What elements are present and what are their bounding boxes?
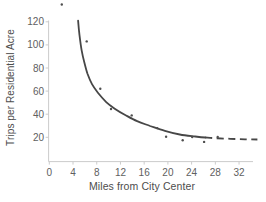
chart-canvas: 04812162024283220406080100120 [0,0,266,202]
x-tick-label: 16 [139,167,151,178]
data-point [110,108,112,110]
data-point [86,40,88,42]
data-point [182,139,184,141]
x-tick-label: 8 [94,167,100,178]
data-point [191,136,193,138]
fitted-curve-solid [78,21,205,138]
y-tick-label: 40 [33,109,45,120]
y-tick-label: 80 [33,63,45,74]
data-point [217,136,219,138]
fitted-curve-dashed [205,138,257,140]
x-tick-label: 4 [70,167,76,178]
y-tick-label: 20 [33,132,45,143]
x-tick-label: 24 [186,167,198,178]
x-tick-label: 12 [115,167,127,178]
x-tick-label: 32 [233,167,245,178]
y-tick-label: 120 [27,16,44,27]
data-point [131,114,133,116]
data-point [203,141,205,143]
x-tick-label: 20 [162,167,174,178]
x-tick-label: 28 [210,167,222,178]
y-axis-title: Trips per Residential Acre [5,18,18,158]
y-tick-label: 60 [33,86,45,97]
y-tick-label: 100 [27,39,44,50]
trip-generation-chart: 04812162024283220406080100120 Trips per … [0,0,266,202]
data-point [99,88,101,90]
data-point [61,3,63,5]
data-point [165,136,167,138]
x-axis-title: Miles from City Center [80,180,204,192]
data-point [156,127,158,129]
x-tick-label: 0 [47,167,53,178]
